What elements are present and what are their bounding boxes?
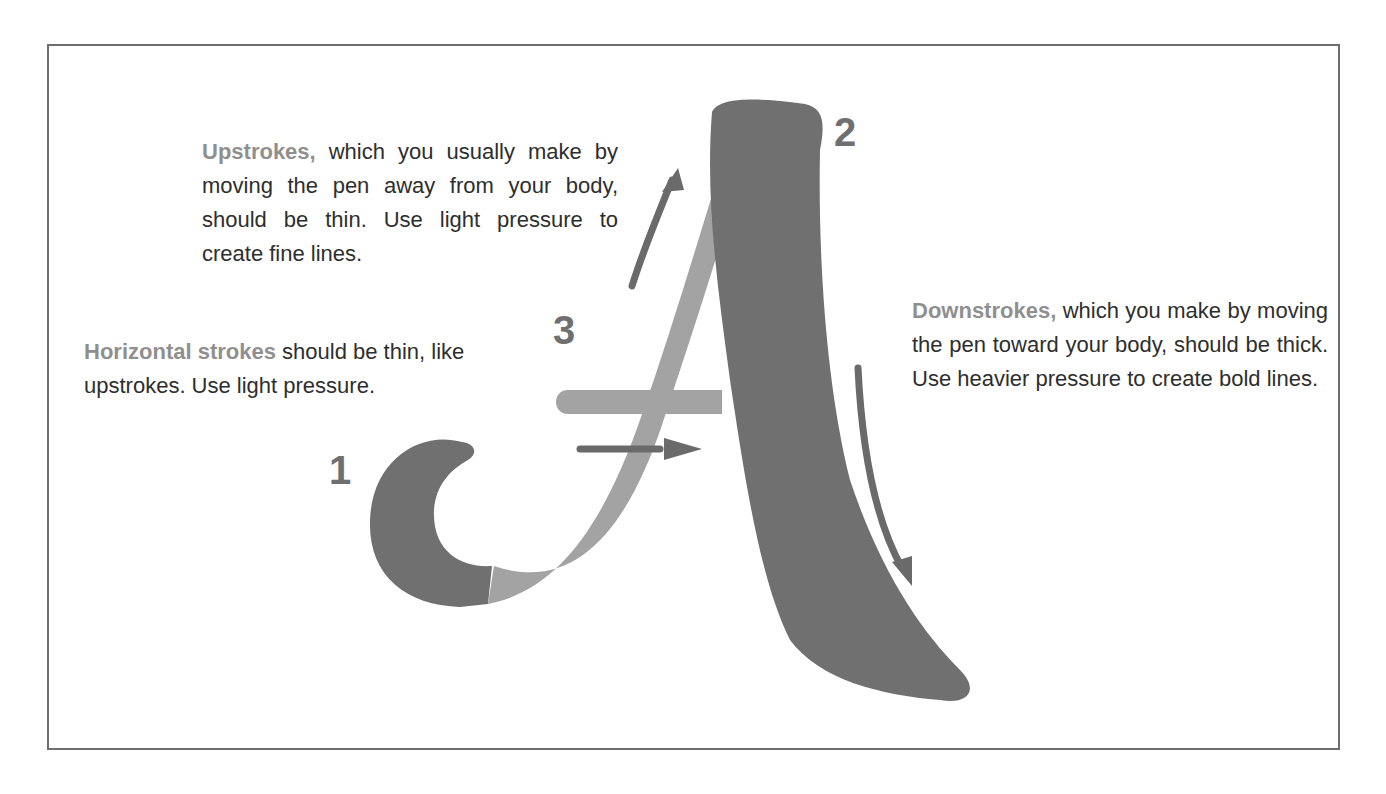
upstrokes-heading: Upstrokes, xyxy=(202,139,316,164)
stroke-number-1: 1 xyxy=(329,448,351,493)
stroke-3-crossbar xyxy=(556,390,722,414)
horizontal-arrowhead-icon xyxy=(664,438,702,460)
stroke-number-2: 2 xyxy=(834,110,856,155)
downstrokes-annotation: Downstrokes, which you make by moving th… xyxy=(912,294,1328,396)
upstroke-arrow xyxy=(632,180,672,286)
horizontal-heading: Horizontal strokes xyxy=(84,339,276,364)
horizontal-annotation: Horizontal strokes should be thin, like … xyxy=(84,335,524,403)
stroke-number-3: 3 xyxy=(553,308,575,353)
stroke-2-downstroke xyxy=(710,100,970,701)
downstrokes-heading: Downstrokes, xyxy=(912,298,1056,323)
stroke-1-hook xyxy=(370,439,492,607)
upstroke-arrowhead-icon xyxy=(662,168,684,192)
upstrokes-annotation: Upstrokes, which you usually make by mov… xyxy=(202,135,618,271)
